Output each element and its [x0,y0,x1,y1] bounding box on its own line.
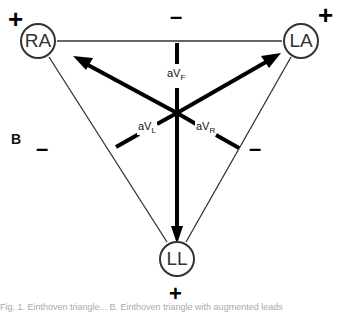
avl-negative-segment [157,113,177,124]
avl-arrow [177,62,266,113]
label-avr: aVR [195,120,216,135]
avl-base: aV [138,120,151,132]
avl-negative-segment-2 [116,134,139,147]
avf-base: aV [167,67,180,79]
lead-ii-line [49,57,167,242]
node-ra: RA [20,23,56,59]
label-avf: aVF [166,67,186,82]
avr-sub: R [209,126,215,135]
avr-base: aV [196,120,209,132]
avl-arrowhead-icon [261,53,281,68]
top-minus-sign: – [170,6,182,28]
label-avl: aVL [137,120,157,135]
left-minus-sign: – [36,138,48,160]
figure-caption: Fig. 1. Einthoven triangle... B. Einthov… [0,302,347,312]
avr-arrow [88,65,177,113]
avf-sub: F [180,73,185,82]
la-plus-sign: + [318,2,333,28]
node-la: LA [283,23,319,59]
panel-label: B [11,131,21,147]
lead-iii-line [186,57,291,242]
right-minus-sign: – [249,138,261,160]
ra-plus-sign: + [8,6,23,32]
node-ll: LL [159,241,195,277]
avr-negative-segment-2 [216,135,239,148]
avl-sub: L [151,126,155,135]
avr-negative-segment [177,113,196,124]
